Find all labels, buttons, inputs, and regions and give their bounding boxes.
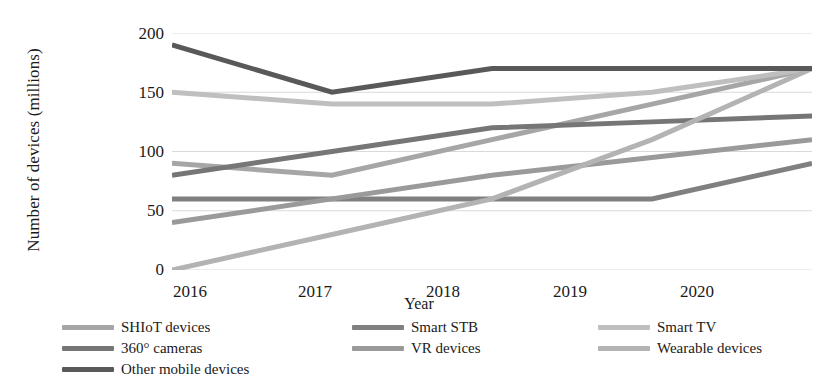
legend-item-label: VR devices [411, 341, 481, 356]
legend-swatch-icon [598, 325, 650, 330]
legend-item-label: 360° cameras [121, 341, 202, 356]
legend-swatch-icon [62, 325, 114, 330]
plot-area [172, 33, 812, 270]
legend-item-label: SHIoT devices [121, 320, 210, 335]
legend-column: SHIoT devices360° camerasOther mobile de… [62, 318, 249, 381]
legend-column: Smart STBVR devices [352, 318, 481, 360]
legend-swatch-icon [352, 325, 404, 330]
legend-swatch-icon [62, 367, 114, 372]
legend-item[interactable]: 360° cameras [62, 339, 249, 357]
y-tick-label: 200 [28, 25, 164, 42]
legend-item[interactable]: SHIoT devices [62, 318, 249, 336]
plot-svg [172, 33, 812, 270]
legend-item[interactable]: Smart STB [352, 318, 481, 336]
legend-item[interactable]: Other mobile devices [62, 360, 249, 378]
y-tick-label: 100 [28, 143, 164, 160]
legend-item[interactable]: Wearable devices [598, 339, 762, 357]
series-line [172, 140, 812, 223]
legend-item[interactable]: VR devices [352, 339, 481, 357]
legend-item-label: Smart STB [411, 320, 478, 335]
legend-item[interactable]: Smart TV [598, 318, 762, 336]
legend-swatch-icon [598, 346, 650, 351]
series-line [172, 116, 812, 175]
legend-column: Smart TVWearable devices [598, 318, 762, 360]
y-tick-label: 0 [28, 261, 164, 278]
legend-swatch-icon [62, 346, 114, 351]
x-axis-title: Year [0, 295, 838, 313]
line-chart: Number of devices (millions) 200 150 100… [0, 0, 838, 392]
y-tick-label: 50 [28, 202, 164, 219]
legend-swatch-icon [352, 346, 404, 351]
y-tick-label: 150 [28, 84, 164, 101]
legend-item-label: Smart TV [657, 320, 716, 335]
legend-item-label: Other mobile devices [121, 362, 249, 377]
legend-item-label: Wearable devices [657, 341, 762, 356]
series-lines [172, 45, 812, 270]
